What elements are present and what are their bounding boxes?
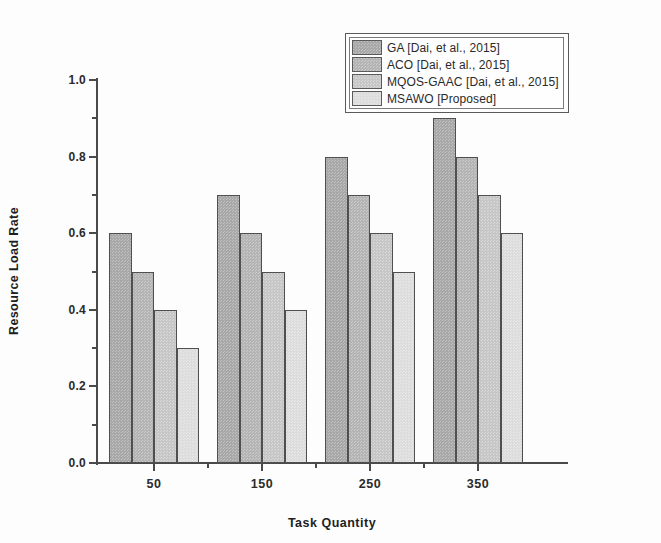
legend-item: ACO [Dai, et al., 2015]: [352, 56, 559, 73]
y-axis-tick: [89, 232, 97, 234]
x-axis-tick-label: 350: [467, 477, 489, 491]
y-axis-tick-label: 0.8: [68, 150, 86, 164]
x-axis-title: Task Quantity: [288, 516, 376, 530]
y-axis-tick-label: 0.2: [68, 379, 86, 393]
y-axis-title: Resource Load Rate: [7, 207, 21, 335]
y-axis-tick-label: 0.4: [68, 303, 86, 317]
bar: [177, 348, 200, 463]
y-axis-minor-tick: [92, 117, 97, 119]
legend-swatch-icon: [352, 91, 382, 106]
y-axis-tick: [89, 79, 97, 81]
bar: [433, 118, 456, 463]
y-axis-tick: [89, 462, 97, 464]
y-axis-minor-tick: [92, 194, 97, 196]
bar: [154, 310, 177, 463]
legend-item: GA [Dai, et al., 2015]: [352, 39, 559, 56]
x-axis-tick: [369, 463, 371, 471]
bar: [132, 272, 155, 464]
y-axis-minor-tick: [92, 347, 97, 349]
chart-figure: Resource Load Rate Task Quantity 0.00.20…: [0, 0, 661, 543]
plot-area: 0.00.20.40.60.81.050150250350: [97, 80, 567, 463]
bar: [262, 272, 285, 464]
y-axis-tick-label: 0.6: [68, 226, 86, 240]
bar: [217, 195, 240, 463]
bar: [348, 195, 371, 463]
y-axis-tick: [89, 309, 97, 311]
y-axis-tick: [89, 385, 97, 387]
legend-item-label: GA [Dai, et al., 2015]: [387, 41, 500, 55]
legend-item-label: MQOS-GAAC [Dai, et al., 2015]: [387, 75, 559, 89]
bar: [240, 233, 263, 463]
bar: [325, 157, 348, 463]
x-axis-tick-label: 150: [251, 477, 273, 491]
x-axis-minor-tick: [207, 463, 209, 468]
x-axis-minor-tick: [423, 463, 425, 468]
x-axis-tick-label: 250: [359, 477, 381, 491]
x-axis-tick-label: 50: [147, 477, 162, 491]
bar: [393, 272, 416, 464]
bar: [456, 157, 479, 463]
y-axis-minor-tick: [92, 424, 97, 426]
legend-item-label: MSAWO [Proposed]: [387, 92, 496, 106]
x-axis-tick: [153, 463, 155, 471]
x-axis-tick: [261, 463, 263, 471]
legend-item: MQOS-GAAC [Dai, et al., 2015]: [352, 73, 559, 90]
legend-swatch-icon: [352, 74, 382, 89]
x-axis-minor-tick: [315, 463, 317, 468]
legend-item-label: ACO [Dai, et al., 2015]: [387, 58, 509, 72]
y-axis-tick: [89, 156, 97, 158]
bar: [478, 195, 501, 463]
legend-item: MSAWO [Proposed]: [352, 90, 559, 107]
bar: [109, 233, 132, 463]
legend-swatch-icon: [352, 40, 382, 55]
bar: [285, 310, 308, 463]
y-axis-tick-label: 1.0: [68, 73, 86, 87]
bar: [501, 233, 524, 463]
legend-swatch-icon: [352, 57, 382, 72]
y-axis-tick-label: 0.0: [68, 456, 86, 470]
legend-rows: GA [Dai, et al., 2015]ACO [Dai, et al., …: [349, 37, 564, 109]
y-axis-minor-tick: [92, 271, 97, 273]
x-axis-tick: [477, 463, 479, 471]
chart-legend: GA [Dai, et al., 2015]ACO [Dai, et al., …: [345, 33, 569, 113]
bar: [370, 233, 393, 463]
